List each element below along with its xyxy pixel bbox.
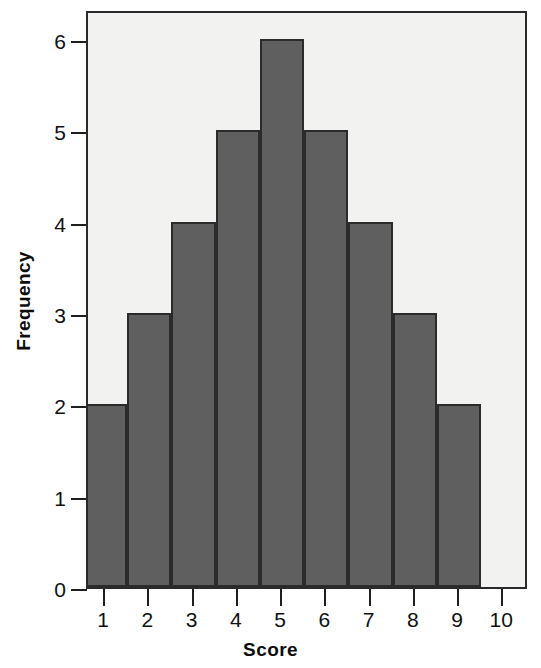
histogram-bar — [348, 222, 392, 587]
y-axis-tick-mark — [71, 41, 86, 43]
x-axis-tick-label: 10 — [490, 609, 513, 630]
y-axis-tick-mark — [71, 315, 86, 317]
x-axis-tick-mark — [457, 589, 459, 606]
x-axis-tick-label: 4 — [230, 609, 242, 630]
histogram-bar — [86, 404, 127, 587]
x-axis-tick-label: 1 — [97, 609, 109, 630]
histogram-bar — [260, 39, 304, 587]
x-axis-tick-mark — [147, 589, 149, 606]
plot-area — [86, 11, 527, 589]
histogram-bar — [127, 313, 171, 587]
y-axis-tick-mark — [71, 224, 86, 226]
y-axis-tick-label: 6 — [54, 30, 66, 51]
y-axis-tick-label: 5 — [54, 122, 66, 143]
x-axis-tick-mark — [280, 589, 282, 606]
x-axis-tick-mark — [324, 589, 326, 606]
histogram-bar — [393, 313, 437, 587]
x-axis-tick-label: 6 — [318, 609, 330, 630]
histogram-bar — [304, 130, 348, 587]
histogram-figure: 0123456 12345678910 Score Frequency — [0, 0, 541, 668]
x-axis-tick-label: 9 — [451, 609, 463, 630]
x-axis-tick-label: 5 — [274, 609, 286, 630]
histogram-bar — [171, 222, 215, 587]
x-axis-tick-label: 3 — [186, 609, 198, 630]
x-axis-tick-mark — [103, 589, 105, 606]
y-axis-tick-label: 3 — [54, 304, 66, 325]
x-axis-tick-label: 8 — [407, 609, 419, 630]
x-axis-tick-label: 2 — [141, 609, 153, 630]
y-axis-tick-label: 2 — [54, 396, 66, 417]
x-axis-tick-mark — [369, 589, 371, 606]
histogram-bar — [437, 404, 481, 587]
y-axis-tick-mark — [71, 406, 86, 408]
y-axis-label: Frequency — [13, 191, 35, 411]
histogram-bar — [216, 130, 260, 587]
x-axis-tick-mark — [192, 589, 194, 606]
x-axis-label: Score — [0, 639, 541, 661]
y-axis-tick-label: 4 — [54, 213, 66, 234]
x-axis-tick-mark — [501, 589, 503, 606]
y-axis-tick-label: 1 — [54, 487, 66, 508]
x-axis-tick-label: 7 — [363, 609, 375, 630]
x-axis-tick-mark — [236, 589, 238, 606]
y-axis-tick-mark — [71, 132, 86, 134]
x-axis-tick-mark — [413, 589, 415, 606]
y-axis-tick-mark — [71, 498, 86, 500]
